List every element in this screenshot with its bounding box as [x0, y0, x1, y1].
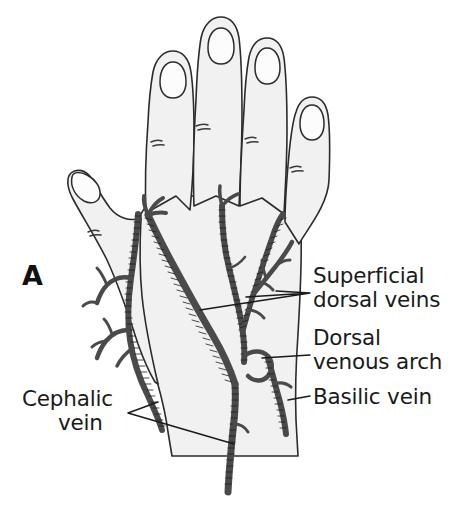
anatomy-figure: A Superficial dorsal veins Dorsal venous…	[0, 0, 458, 509]
label-basilic-vein-line1: Basilic vein	[313, 384, 432, 409]
label-cephalic-vein: Cephalic vein	[22, 386, 113, 435]
fingernail-index	[160, 62, 186, 98]
label-superficial-dorsal-veins-line1: Superficial	[313, 263, 424, 288]
fingernail-little	[300, 105, 324, 140]
label-superficial-dorsal-veins-line2: dorsal veins	[313, 287, 440, 312]
panel-letter: A	[22, 260, 43, 291]
label-superficial-dorsal-veins: Superficial dorsal veins	[313, 263, 440, 312]
dorsum-of-hand	[138, 196, 301, 456]
cephalic-branch-mid-fork	[92, 319, 112, 347]
label-dorsal-venous-arch: Dorsal venous arch	[313, 325, 442, 374]
hand-venous-illustration: A Superficial dorsal veins Dorsal venous…	[0, 0, 458, 509]
label-dorsal-venous-arch-line1: Dorsal	[313, 325, 381, 350]
label-cephalic-vein-line2: vein	[58, 410, 103, 435]
fingernail-ring	[255, 48, 280, 84]
label-basilic-vein: Basilic vein	[313, 384, 432, 409]
label-dorsal-venous-arch-line2: venous arch	[313, 349, 442, 374]
label-cephalic-vein-line1: Cephalic	[22, 386, 113, 411]
fingernail-middle	[208, 28, 234, 64]
